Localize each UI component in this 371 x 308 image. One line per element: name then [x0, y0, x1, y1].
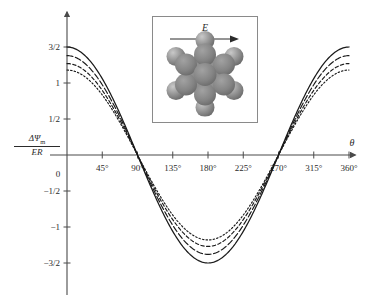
- carbon-atom: [194, 43, 216, 65]
- carbon-atom: [213, 73, 235, 95]
- carbon-atom: [213, 53, 235, 75]
- x-tick-label: 180°: [199, 163, 217, 173]
- y-axis-label-denominator: ER: [14, 146, 60, 157]
- y-axis-label-numerator: ΔΨm: [14, 134, 60, 146]
- carbon-atom: [194, 83, 216, 105]
- benzene-molecule-model: [159, 30, 251, 116]
- x-tick-labels: 45°90°135°180°225°270°315°360°: [96, 163, 358, 173]
- x-axis-label: θ: [350, 137, 355, 148]
- x-tick-label: 45°: [96, 163, 109, 173]
- inset-panel: E: [152, 16, 258, 123]
- y-tick-label: −1: [50, 222, 60, 232]
- x-tick-label: 225°: [235, 163, 253, 173]
- x-tick-label: 315°: [305, 163, 323, 173]
- carbon-atom-center: [194, 62, 217, 85]
- origin-label: 0: [56, 169, 61, 179]
- figure-root: 45°90°135°180°225°270°315°360° 3/211/2−1…: [0, 0, 371, 308]
- y-axis-label: ΔΨm ER: [14, 134, 60, 157]
- y-tick-label: −3/2: [43, 258, 60, 268]
- y-tick-label: 1/2: [48, 114, 60, 124]
- y-axis-numerator-subscript: m: [40, 138, 45, 145]
- x-tick-label: 360°: [340, 163, 358, 173]
- y-tick-label: 1: [56, 78, 61, 88]
- carbon-atom: [175, 73, 197, 95]
- y-tick-label: 3/2: [48, 42, 60, 52]
- x-tick-label: 135°: [164, 163, 182, 173]
- y-axis-numerator-symbol: ΔΨ: [29, 133, 41, 143]
- carbon-atom: [175, 53, 197, 75]
- y-tick-label: −1/2: [43, 186, 60, 196]
